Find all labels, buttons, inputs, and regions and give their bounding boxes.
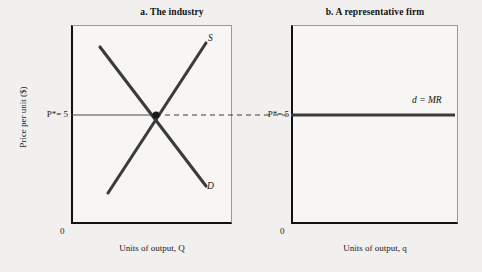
demand-curve-label: D: [207, 181, 214, 191]
panel-b-title: b. A representative firm: [315, 7, 435, 17]
panel-a-price-tick-label: P*= 5: [22, 109, 68, 119]
figure-container: a. The industry b. A representative firm…: [0, 0, 482, 272]
panel-b-price-tick-label: P*= 5: [245, 109, 289, 119]
panel-a-title: a. The industry: [112, 7, 232, 17]
panel-a-origin-label: 0: [60, 226, 65, 236]
firm-demand-mr-label: d = MR: [412, 95, 442, 105]
supply-curve-label: S: [208, 33, 213, 43]
panel-a-plot-area: [71, 25, 232, 224]
panel-b-origin-label: 0: [280, 226, 285, 236]
panel-b-plot-area: [291, 25, 458, 224]
panel-a-x-axis-label: Units of output, Q: [92, 243, 212, 253]
panel-b-x-axis-label: Units of output, q: [315, 243, 435, 253]
